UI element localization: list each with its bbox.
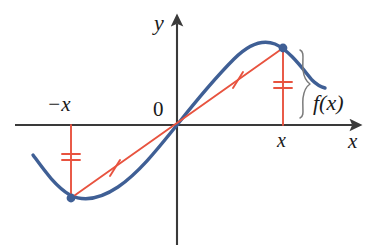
x-tick-label: x xyxy=(277,130,286,150)
function-value-label: f(x) xyxy=(313,92,344,114)
axes-group xyxy=(15,24,352,245)
origin-label: 0 xyxy=(153,99,164,120)
y-axis-label: y xyxy=(154,12,164,34)
congruence-tick-secant-upper xyxy=(233,72,243,88)
point-positive-x xyxy=(279,44,288,53)
fx-brace-group xyxy=(300,50,310,118)
negative-x-tick-label: −x xyxy=(47,94,71,115)
odd-function-diagram: y 0 x x −x f(x) xyxy=(0,0,387,250)
point-negative-x xyxy=(67,194,76,203)
x-axis-label: x xyxy=(348,131,357,152)
fx-brace-icon xyxy=(300,50,310,118)
congruence-tick-secant-lower xyxy=(110,160,120,176)
diagram-canvas xyxy=(0,0,387,250)
